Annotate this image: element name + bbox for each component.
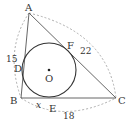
tangent-label-f: F: [67, 40, 74, 51]
unknown-label-x: x: [36, 100, 41, 110]
side-ab: [21, 13, 29, 98]
tangent-label-d: D: [14, 63, 22, 74]
length-label-ac: 22: [80, 46, 91, 56]
geometry-figure: A B C D E F O 15 22 18 x: [0, 0, 133, 122]
center-point: [48, 69, 51, 72]
length-label-ab: 15: [6, 54, 18, 64]
vertex-label-c: C: [118, 95, 126, 106]
center-label-o: O: [45, 73, 53, 84]
vertex-label-b: B: [10, 95, 17, 106]
side-ac: [29, 13, 116, 98]
length-label-bc: 18: [63, 111, 75, 121]
vertex-label-a: A: [24, 2, 33, 13]
tangent-label-e: E: [49, 103, 56, 114]
